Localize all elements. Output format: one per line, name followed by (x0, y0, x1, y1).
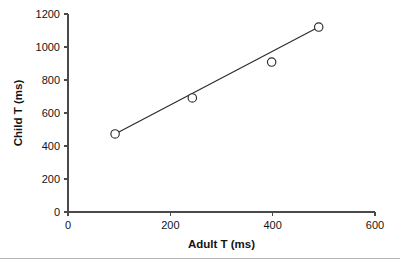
y-tick-label: 800 (42, 74, 60, 86)
y-tick-group: 020040060080010001200 (36, 8, 68, 218)
y-tick-label: 1000 (36, 41, 60, 53)
data-point-marker (315, 23, 323, 31)
x-tick-label: 600 (366, 219, 384, 231)
x-axis-title: Adult T (ms) (188, 238, 255, 250)
data-point-marker (188, 94, 196, 102)
x-tick-label: 0 (65, 219, 71, 231)
data-point-marker (267, 58, 275, 66)
y-tick-label: 0 (54, 206, 60, 218)
x-tick-group: 0200400600 (65, 212, 384, 231)
y-tick-label: 200 (42, 173, 60, 185)
data-series-group (111, 23, 323, 138)
x-axis-group: 0200400600 Adult T (ms) (65, 212, 384, 250)
y-tick-label: 400 (42, 140, 60, 152)
data-point-marker (111, 130, 119, 138)
footer-divider (0, 258, 400, 259)
y-tick-label: 600 (42, 107, 60, 119)
y-axis-title: Child T (ms) (12, 80, 24, 147)
y-tick-label: 1200 (36, 8, 60, 20)
x-tick-label: 400 (263, 219, 281, 231)
x-tick-label: 200 (161, 219, 179, 231)
regression-line (115, 27, 319, 134)
figure-container: 020040060080010001200 Child T (ms) 02004… (0, 0, 400, 264)
scatter-plot: 020040060080010001200 Child T (ms) 02004… (0, 0, 400, 264)
y-axis-group: 020040060080010001200 Child T (ms) (12, 8, 68, 218)
